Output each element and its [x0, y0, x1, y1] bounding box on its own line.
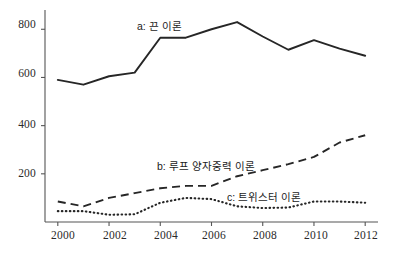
- y-axis-tick-label: 200: [2, 167, 36, 179]
- series-group: [58, 22, 365, 215]
- x-axis-ticks: [58, 222, 365, 226]
- y-axis-tick-label: 600: [2, 67, 36, 79]
- y-axis-ticks: [41, 29, 45, 174]
- chart-plot-area: [0, 0, 394, 257]
- axis-group: [41, 10, 378, 226]
- y-axis-tick-label: 400: [2, 118, 36, 130]
- x-axis-tick-label: 2010: [296, 229, 336, 241]
- x-axis-tick-label: 2002: [95, 229, 135, 241]
- series-c-line: [58, 198, 365, 215]
- x-axis-tick-label: 2000: [43, 229, 83, 241]
- x-axis-tick-label: 2004: [146, 229, 186, 241]
- series-label-b: b: 루프 양자중력 이론: [157, 158, 255, 173]
- x-axis-tick-label: 2008: [245, 229, 285, 241]
- y-axis-tick-label: 800: [2, 18, 36, 30]
- x-axis-tick-label: 2006: [194, 229, 234, 241]
- chart-container: 800600400200 200020022004200620082010201…: [0, 0, 394, 257]
- series-label-a: a: 끈 이론: [137, 18, 182, 33]
- series-a-line: [58, 22, 365, 85]
- x-axis-tick-label: 2012: [346, 229, 386, 241]
- series-label-c: c: 트위스터 이론: [227, 189, 301, 204]
